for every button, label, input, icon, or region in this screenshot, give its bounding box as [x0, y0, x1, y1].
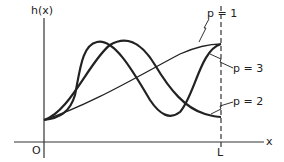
curve-label-p1: p = 1: [207, 8, 237, 19]
leader-p1: [199, 19, 209, 42]
leader-p2: [211, 102, 233, 114]
diagram-canvas: [0, 0, 284, 162]
origin-label: O: [32, 145, 41, 156]
curve-label-p3: p = 3: [233, 63, 263, 74]
curve-label-p2: p = 2: [233, 96, 263, 107]
x-axis-label: x: [266, 136, 273, 147]
y-axis-label: h(x): [31, 5, 53, 16]
boundary-label: L: [217, 147, 223, 158]
